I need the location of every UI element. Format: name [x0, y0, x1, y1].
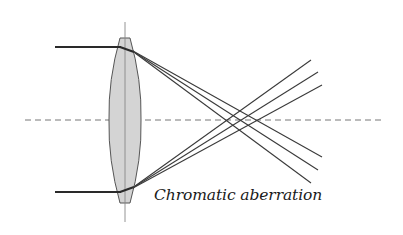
ray-top-1 [133, 51, 322, 157]
ray-top-3 [135, 53, 311, 183]
refracted-rays-bottom [133, 60, 322, 188]
chromatic-aberration-diagram: Chromatic aberration [0, 0, 403, 235]
caption: Chromatic aberration [154, 186, 322, 204]
ray-bottom-2 [134, 72, 318, 187]
ray-bottom-1 [133, 85, 322, 188]
ray-top-2 [134, 52, 318, 170]
ray-bottom-3 [135, 60, 311, 186]
refracted-rays-top [133, 51, 322, 183]
